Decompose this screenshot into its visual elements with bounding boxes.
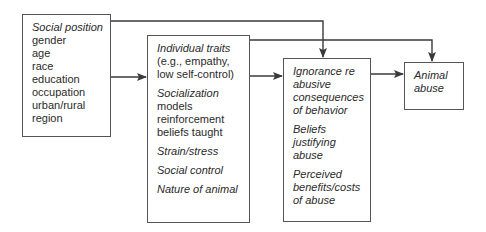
group-line: of behavior: [293, 104, 364, 117]
group-line: Beliefs: [293, 123, 364, 136]
group-line: consequences: [293, 91, 364, 104]
group-strain-stress: Strain/stress: [157, 145, 243, 158]
group-title: Socialization: [157, 87, 243, 100]
group-line: low self-control): [157, 68, 243, 81]
group-line: Perceived: [293, 168, 364, 181]
group-line: justifying: [293, 136, 364, 149]
group-beliefs: Beliefs justifying abuse: [293, 123, 364, 162]
item-occupation: occupation: [32, 86, 104, 99]
group-title: Nature of animal: [157, 183, 243, 196]
item-race: race: [32, 60, 104, 73]
group-line: benefits/costs: [293, 181, 364, 194]
box-social-position: Social position gender age race educatio…: [22, 14, 111, 137]
item-age: age: [32, 47, 104, 60]
box-animal-abuse: Animal abuse: [404, 62, 464, 110]
group-line: reinforcement: [157, 113, 243, 126]
group-line: beliefs taught: [157, 126, 243, 139]
group-title: Strain/stress: [157, 145, 243, 158]
item-region: region: [32, 112, 104, 125]
item-urban-rural: urban/rural: [32, 99, 104, 112]
group-title: Social control: [157, 164, 243, 177]
group-ignorance: Ignorance re abusive consequences of beh…: [293, 65, 364, 117]
group-socialization: Socialization models reinforcement belie…: [157, 87, 243, 139]
group-line: models: [157, 100, 243, 113]
outcome-line: abuse: [414, 82, 457, 95]
group-title: Individual traits: [157, 42, 243, 55]
group-line: (e.g., empathy,: [157, 55, 243, 68]
box-title: Social position: [32, 21, 104, 34]
group-individual-traits: Individual traits (e.g., empathy, low se…: [157, 42, 243, 81]
box-intermediate-factors: Individual traits (e.g., empathy, low se…: [147, 35, 250, 223]
box-proximate-factors: Ignorance re abusive consequences of beh…: [283, 58, 371, 222]
group-nature-of-animal: Nature of animal: [157, 183, 243, 196]
group-line: Ignorance re: [293, 65, 364, 78]
item-education: education: [32, 73, 104, 86]
item-gender: gender: [32, 34, 104, 47]
group-perceived-benefits: Perceived benefits/costs of abuse: [293, 168, 364, 207]
group-line: abuse: [293, 149, 364, 162]
outcome-line: Animal: [414, 69, 457, 82]
group-social-control: Social control: [157, 164, 243, 177]
group-line: of abuse: [293, 194, 364, 207]
group-line: abusive: [293, 78, 364, 91]
